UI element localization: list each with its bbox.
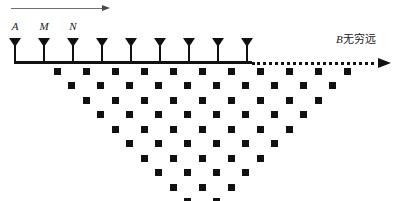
data-point xyxy=(184,111,191,118)
electrode-4 xyxy=(96,38,108,63)
data-point xyxy=(286,97,293,104)
data-point xyxy=(141,126,148,133)
electrode-1 xyxy=(9,38,21,63)
data-point xyxy=(257,155,264,162)
survey-line-solid xyxy=(14,61,252,64)
data-point xyxy=(126,111,133,118)
data-point xyxy=(271,111,278,118)
electrode-6 xyxy=(154,38,166,63)
data-point xyxy=(83,97,90,104)
data-point xyxy=(228,184,235,191)
electrode-7 xyxy=(183,38,195,63)
electrode-8 xyxy=(212,38,224,63)
electrode-5 xyxy=(125,38,137,63)
data-point xyxy=(300,111,307,118)
data-point xyxy=(213,111,220,118)
b-electrode-symbol: B xyxy=(336,33,343,45)
data-point xyxy=(155,82,162,89)
survey-direction-arrow-head xyxy=(102,5,110,11)
electrode-3 xyxy=(67,38,79,63)
pseudosection-figure: AMN B无穷远 xyxy=(0,0,398,201)
data-point xyxy=(97,111,104,118)
data-point xyxy=(344,68,351,75)
data-point xyxy=(242,169,249,176)
data-point xyxy=(155,169,162,176)
data-point xyxy=(228,155,235,162)
data-point xyxy=(155,140,162,147)
data-point xyxy=(68,82,75,89)
data-point xyxy=(155,111,162,118)
data-point xyxy=(112,97,119,104)
data-point xyxy=(184,140,191,147)
data-point xyxy=(271,82,278,89)
data-point xyxy=(213,82,220,89)
data-point xyxy=(213,169,220,176)
data-point xyxy=(184,198,191,201)
data-point xyxy=(271,140,278,147)
b-infinity-label: B无穷远 xyxy=(336,30,376,46)
electrode-label-n: N xyxy=(63,20,83,32)
data-point xyxy=(329,82,336,89)
data-point xyxy=(83,68,90,75)
survey-direction-arrow-line xyxy=(11,8,102,9)
data-point xyxy=(199,126,206,133)
b-infinity-text: 无穷远 xyxy=(343,33,376,46)
data-point xyxy=(257,97,264,104)
data-point xyxy=(286,126,293,133)
data-point xyxy=(184,82,191,89)
data-point xyxy=(170,184,177,191)
data-point xyxy=(170,126,177,133)
electrode-label-m: M xyxy=(34,20,54,32)
data-point xyxy=(126,82,133,89)
data-point xyxy=(242,140,249,147)
survey-line-arrow-head xyxy=(378,58,391,68)
survey-line-dotted xyxy=(252,62,374,65)
data-point xyxy=(228,68,235,75)
data-point xyxy=(170,155,177,162)
data-point xyxy=(184,169,191,176)
data-point xyxy=(286,68,293,75)
data-point xyxy=(315,68,322,75)
data-point xyxy=(170,68,177,75)
data-point xyxy=(141,68,148,75)
data-point xyxy=(300,82,307,89)
data-point xyxy=(141,97,148,104)
data-point xyxy=(228,97,235,104)
data-point xyxy=(112,126,119,133)
data-point xyxy=(213,140,220,147)
data-point xyxy=(199,184,206,191)
data-point xyxy=(199,97,206,104)
data-point xyxy=(199,68,206,75)
data-point xyxy=(170,97,177,104)
data-point xyxy=(242,111,249,118)
data-point xyxy=(112,68,119,75)
data-point xyxy=(315,97,322,104)
data-point xyxy=(126,140,133,147)
electrode-2 xyxy=(38,38,50,63)
data-point xyxy=(54,68,61,75)
data-point xyxy=(257,68,264,75)
electrode-9 xyxy=(241,38,253,63)
data-point xyxy=(97,82,104,89)
data-point xyxy=(199,155,206,162)
data-point xyxy=(242,82,249,89)
data-point xyxy=(228,126,235,133)
data-point xyxy=(257,126,264,133)
data-point xyxy=(141,155,148,162)
data-point xyxy=(213,198,220,201)
electrode-label-a: A xyxy=(5,20,25,32)
